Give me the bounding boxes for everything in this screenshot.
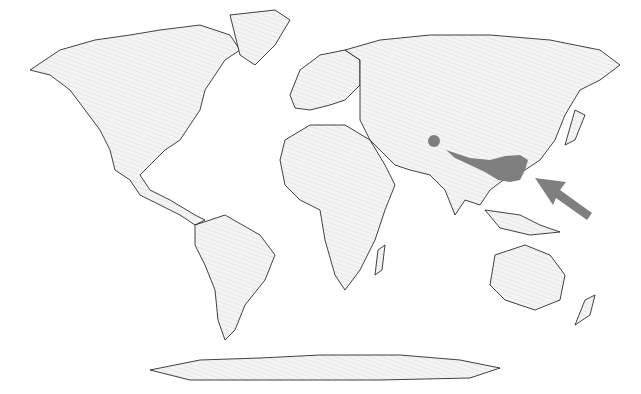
southeast-asia-islands <box>485 210 560 235</box>
new-zealand <box>575 295 595 325</box>
japan <box>565 110 585 145</box>
antarctica <box>150 355 500 380</box>
world-map <box>0 0 641 394</box>
highlight-tibet-patch <box>428 135 440 147</box>
madagascar <box>375 245 385 275</box>
arrow-pointer <box>535 178 592 220</box>
north-america <box>30 25 240 225</box>
europe <box>290 50 360 110</box>
greenland <box>230 10 290 65</box>
australia <box>490 245 565 310</box>
south-america <box>195 215 275 340</box>
